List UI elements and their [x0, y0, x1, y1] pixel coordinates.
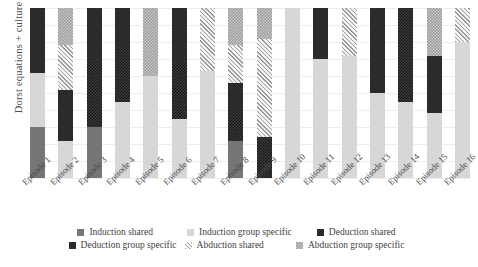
bar-episode-11 — [313, 8, 328, 178]
legend-label: Abduction group specific — [308, 240, 405, 250]
bar-episode-9 — [257, 8, 272, 178]
bar-segment-abd-shared — [200, 8, 215, 71]
x-tick: Episode 12 — [342, 178, 357, 224]
bar-segment-ded-group — [87, 8, 102, 59]
x-tick: Episode 1 — [30, 178, 45, 224]
x-tick: Episode 3 — [87, 178, 102, 224]
legend-swatch-abd-group-icon — [296, 242, 303, 249]
bar-episode-1 — [30, 8, 45, 178]
bar-segment-ded-group — [172, 8, 187, 62]
bar-segment-ded-group — [313, 8, 328, 59]
bar-segment-abd-shared — [455, 8, 470, 42]
bar-segment-abd-group — [58, 8, 73, 45]
legend-swatch-ind-group-icon — [187, 229, 194, 236]
legend-item-ded-shared[interactable]: Deduction shared — [317, 227, 396, 237]
x-tick: Episode 5 — [143, 178, 158, 224]
x-tick: Episode 13 — [370, 178, 385, 224]
legend-swatch-ded-shared-icon — [317, 229, 324, 236]
bar-segment-abd-group — [143, 8, 158, 76]
bar-episode-5 — [143, 8, 158, 178]
x-tick: Episode 11 — [313, 178, 328, 224]
bar-episode-4 — [115, 8, 130, 178]
bar-episode-6 — [172, 8, 187, 178]
bar-segment-abd-shared — [342, 8, 357, 56]
bar-segment-abd-group — [257, 8, 272, 39]
bar-segment-abd-shared — [257, 39, 272, 138]
bar-episode-12 — [342, 8, 357, 178]
legend-label: Deduction shared — [329, 227, 396, 237]
chart-legend: Induction sharedInduction group specific… — [0, 224, 473, 267]
legend-row-bottom: Deduction group specificAbduction shared… — [69, 240, 405, 250]
y-axis-label: Dorst equations + culture — [13, 0, 24, 138]
legend-label: Induction group specific — [199, 227, 292, 237]
bar-episode-8 — [228, 8, 243, 178]
bar-episode-2 — [58, 8, 73, 178]
bar-segment-ded-group — [427, 56, 442, 114]
legend-label: Abduction shared — [197, 240, 264, 250]
bar-segment-abd-group — [228, 8, 243, 45]
x-tick: Episode 16 — [455, 178, 470, 224]
legend-swatch-abd-shared-icon — [185, 242, 192, 249]
x-tick: Episode 4 — [115, 178, 130, 224]
bar-episode-15 — [427, 8, 442, 178]
legend-item-ded-group[interactable]: Deduction group specific — [69, 240, 177, 250]
x-tick: Episode 2 — [58, 178, 73, 224]
x-axis-labels: Episode 1Episode 2Episode 3Episode 4Epis… — [30, 178, 470, 224]
x-tick: Episode 9 — [257, 178, 272, 224]
legend-item-ind-group[interactable]: Induction group specific — [187, 227, 292, 237]
bar-episode-14 — [398, 8, 413, 178]
plot-area: Dorst equations + culture Episode 1Episo… — [0, 0, 473, 186]
x-tick: Episode 10 — [285, 178, 300, 224]
plot-canvas — [30, 8, 470, 178]
legend-label: Induction shared — [89, 227, 153, 237]
bar-episode-7 — [200, 8, 215, 178]
legend-swatch-ded-group-icon — [69, 242, 76, 249]
legend-item-ind-shared[interactable]: Induction shared — [77, 227, 153, 237]
bar-segment-ded-group — [30, 8, 45, 73]
legend-label: Deduction group specific — [81, 240, 177, 250]
legend-item-abd-group[interactable]: Abduction group specific — [296, 240, 405, 250]
x-tick: Episode 14 — [398, 178, 413, 224]
legend-swatch-ind-shared-icon — [77, 229, 84, 236]
bar-group — [30, 8, 470, 178]
legend-item-abd-shared[interactable]: Abduction shared — [185, 240, 264, 250]
bar-segment-ded-group — [58, 90, 73, 141]
bar-segment-ded-shared — [87, 59, 102, 127]
bar-segment-abd-shared — [58, 45, 73, 89]
bar-segment-ded-group — [228, 83, 243, 112]
bar-segment-ded-shared — [172, 62, 187, 118]
bar-segment-ded-shared — [115, 47, 130, 101]
bar-segment-ded-shared — [228, 112, 243, 141]
bar-segment-ded-group — [115, 8, 130, 47]
bar-episode-3 — [87, 8, 102, 178]
bar-segment-ded-shared — [398, 8, 413, 102]
bar-segment-abd-shared — [228, 45, 243, 82]
bar-segment-ded-group — [370, 8, 385, 93]
legend-row-top: Induction sharedInduction group specific… — [77, 227, 395, 237]
x-tick: Episode 7 — [200, 178, 215, 224]
x-tick: Episode 6 — [172, 178, 187, 224]
x-tick: Episode 15 — [427, 178, 442, 224]
bar-segment-ind-group — [30, 73, 45, 127]
x-tick: Episode 8 — [228, 178, 243, 224]
bar-segment-abd-group — [427, 8, 442, 56]
